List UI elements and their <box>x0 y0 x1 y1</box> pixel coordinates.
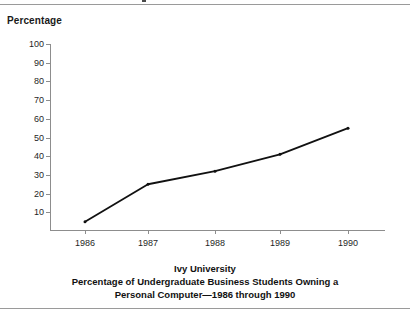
y-axis-tick-label: 70 <box>10 96 44 105</box>
y-axis-tick-label: 100 <box>10 40 44 49</box>
caption-line-2: Percentage of Undergraduate Business Stu… <box>0 275 410 288</box>
bottom-divider-rule <box>0 308 410 309</box>
x-axis-tick-label: 1988 <box>185 238 245 248</box>
y-axis-tick-label: 60 <box>10 115 44 124</box>
chart-page: Percentage 102030405060708090100 1986198… <box>0 0 410 318</box>
chart-caption: Ivy University Percentage of Undergradua… <box>0 262 410 301</box>
caption-line-3: Personal Computer—1986 through 1990 <box>0 288 410 301</box>
caption-line-1: Ivy University <box>0 262 410 275</box>
x-axis-tick-label: 1987 <box>118 238 178 248</box>
y-axis-tick-label: 20 <box>10 190 44 199</box>
y-axis-tick-label: 90 <box>10 59 44 68</box>
y-axis-tick-label: 80 <box>10 77 44 86</box>
x-axis-tick-label: 1986 <box>55 238 115 248</box>
y-axis-tick-label: 10 <box>10 208 44 217</box>
x-axis-tick-label: 1989 <box>250 238 310 248</box>
x-axis-tick-label: 1990 <box>318 238 378 248</box>
y-axis-tick-label: 40 <box>10 152 44 161</box>
y-axis-labels: 102030405060708090100 <box>10 44 44 231</box>
y-axis-tick-label: 50 <box>10 134 44 143</box>
x-axis-labels: 19861987198819891990 <box>50 0 385 260</box>
y-axis-tick-label: 30 <box>10 171 44 180</box>
